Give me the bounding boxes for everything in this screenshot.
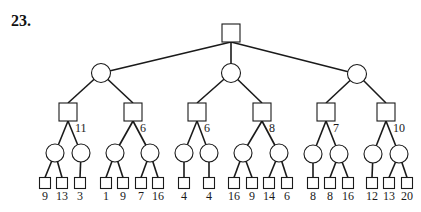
leaf-node	[308, 178, 319, 189]
leaf-node	[229, 178, 240, 189]
tree-edge	[101, 42, 231, 73]
leaf-value: 9	[120, 189, 126, 203]
chance-node	[348, 65, 367, 84]
root-decision-node	[222, 24, 240, 42]
chance-node	[72, 144, 90, 162]
leaf-value: 4	[181, 189, 187, 203]
leaf-value: 7	[138, 189, 144, 203]
leaf-node	[247, 178, 258, 189]
chance-node	[364, 145, 382, 163]
chance-node	[106, 144, 124, 162]
leaf-node	[118, 178, 129, 189]
chance-node	[92, 64, 111, 83]
leaf-node	[57, 178, 68, 189]
leaf-value: 6	[284, 189, 290, 203]
leaf-value: 14	[263, 189, 275, 203]
tree-edge	[231, 42, 357, 74]
leaf-node	[325, 178, 336, 189]
decision-node	[253, 103, 271, 121]
leaf-value: 16	[152, 189, 164, 203]
decision-node-value: 8	[269, 121, 275, 135]
leaf-node	[367, 178, 378, 189]
decision-node	[59, 103, 77, 121]
leaf-node	[179, 178, 190, 189]
leaf-value: 8	[310, 189, 316, 203]
chance-node	[390, 145, 408, 163]
game-tree-diagram: 11668710913319716441691468816121320	[0, 0, 421, 212]
leaf-node	[402, 178, 413, 189]
leaf-node	[136, 178, 147, 189]
chance-node	[175, 144, 193, 162]
leaf-node	[343, 178, 354, 189]
chance-node	[222, 64, 241, 83]
leaf-value: 16	[228, 189, 240, 203]
leaf-value: 13	[383, 189, 395, 203]
decision-node-value: 10	[393, 121, 405, 135]
leaf-node	[101, 178, 112, 189]
leaf-value: 16	[342, 189, 354, 203]
leaf-node	[282, 178, 293, 189]
leaf-node	[204, 178, 215, 189]
chance-node	[200, 144, 218, 162]
tree-edges	[45, 42, 407, 178]
chance-node	[270, 144, 288, 162]
decision-node-value: 11	[75, 121, 87, 135]
decision-node	[124, 103, 142, 121]
decision-node-value: 6	[140, 121, 146, 135]
leaf-node	[153, 178, 164, 189]
tree-labels: 11668710913319716441691468816121320	[42, 121, 413, 203]
leaf-value: 4	[206, 189, 212, 203]
chance-node	[234, 144, 252, 162]
decision-node	[188, 103, 206, 121]
leaf-value: 3	[77, 189, 83, 203]
chance-node	[304, 145, 322, 163]
leaf-value: 8	[327, 189, 333, 203]
leaf-value: 12	[366, 189, 378, 203]
leaf-node	[264, 178, 275, 189]
chance-node	[141, 144, 159, 162]
leaf-value: 9	[249, 189, 255, 203]
leaf-value: 20	[401, 189, 413, 203]
leaf-node	[75, 178, 86, 189]
chance-node	[330, 145, 348, 163]
tree-nodes	[40, 24, 413, 189]
leaf-value: 1	[103, 189, 109, 203]
decision-node	[377, 103, 395, 121]
decision-node	[317, 103, 335, 121]
leaf-node	[40, 178, 51, 189]
leaf-node	[384, 178, 395, 189]
decision-node-value: 6	[204, 121, 210, 135]
leaf-value: 13	[56, 189, 68, 203]
chance-node	[46, 144, 64, 162]
decision-node-value: 7	[333, 121, 339, 135]
leaf-value: 9	[42, 189, 48, 203]
